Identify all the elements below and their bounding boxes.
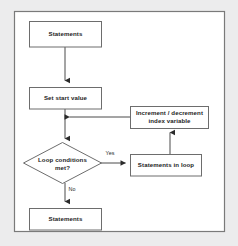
node-statements-top[interactable]: Statements bbox=[30, 22, 102, 48]
node-loop-condition-label-line1: Loop conditions bbox=[38, 156, 87, 163]
edge-label-no: No bbox=[69, 186, 76, 192]
flowchart-diagram: Statements Set start value Increment / d… bbox=[0, 0, 238, 246]
node-set-start-value-label: Set start value bbox=[44, 94, 88, 101]
node-statements-in-loop-label: Statements in loop bbox=[138, 161, 194, 168]
node-loop-condition-label-line2: met? bbox=[55, 164, 70, 171]
edge-label-yes: Yes bbox=[106, 150, 115, 156]
node-statements-bottom[interactable]: Statements bbox=[30, 209, 102, 231]
node-set-start-value[interactable]: Set start value bbox=[30, 88, 102, 110]
node-increment-decrement[interactable]: Increment / decrement index variable bbox=[131, 107, 209, 129]
node-statements-top-label: Statements bbox=[49, 30, 83, 37]
node-statements-bottom-label: Statements bbox=[49, 215, 83, 222]
flowchart-canvas: Statements Set start value Increment / d… bbox=[0, 0, 238, 246]
node-increment-decrement-label-line2: index variable bbox=[148, 117, 191, 124]
node-increment-decrement-label-line1: Increment / decrement bbox=[136, 109, 203, 116]
node-statements-in-loop[interactable]: Statements in loop bbox=[131, 155, 202, 177]
